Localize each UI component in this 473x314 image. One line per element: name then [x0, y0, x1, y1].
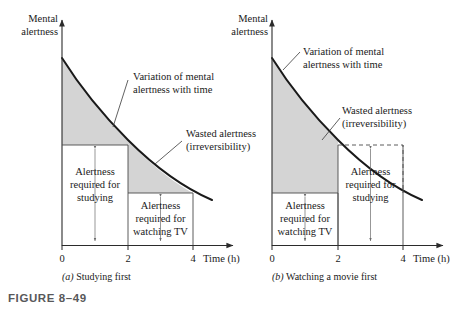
- leader-curve-callout-b: [283, 52, 300, 70]
- tick-label-4-a: 4: [190, 253, 196, 264]
- leader-wasted-callout-a: [155, 141, 182, 164]
- curve-callout-a-line2: alertness with time: [133, 84, 213, 95]
- x-axis-label-b: Time (h): [413, 253, 450, 265]
- leader-curve-callout-a: [113, 80, 128, 127]
- chart-b: Mental alertness Time (h) 0 2 4 Variatio…: [231, 13, 450, 283]
- wasted-callout-b-line2: (irreversibility): [342, 118, 407, 130]
- chart-a: Mental alertness Time (h) 0 2 4 Variatio…: [21, 13, 256, 283]
- block-studying-label-a-line3: studying: [77, 192, 114, 203]
- block-studying-label-b-line3: studying: [352, 192, 389, 203]
- tick-label-0-b: 0: [269, 253, 274, 264]
- y-axis-label-a-line1: Mental: [28, 13, 58, 24]
- block-watching-tv-label-b-line1: Alertness: [285, 200, 325, 211]
- block-watching-tv-label-b-line3: watching TV: [278, 226, 333, 237]
- block-studying-label-b-line2: required for: [346, 179, 396, 190]
- y-axis-label-b-line2: alertness: [231, 26, 268, 37]
- block-studying-label-b-line1: Alertness: [351, 166, 391, 177]
- x-axis-label-a: Time (h): [203, 253, 240, 265]
- y-axis-label-a-line2: alertness: [21, 26, 58, 37]
- subcaption-b-text: Watching a movie first: [284, 271, 378, 282]
- wasted-callout-b-line1: Wasted alertness: [342, 105, 412, 116]
- block-watching-tv-label-a-line2: required for: [136, 213, 186, 224]
- shaded-wasted-area-b: [272, 58, 338, 193]
- tick-label-4-b: 4: [400, 253, 406, 264]
- subcaption-a-text: Studying first: [74, 271, 131, 282]
- figure-container: Mental alertness Time (h) 0 2 4 Variatio…: [0, 0, 473, 314]
- tick-label-2-b: 2: [335, 253, 340, 264]
- figure-graphic: Mental alertness Time (h) 0 2 4 Variatio…: [0, 0, 473, 314]
- curve-callout-b-line1: Variation of mental: [303, 46, 384, 57]
- subcaption-b: (b) Watching a movie first: [272, 271, 377, 283]
- block-watching-tv-label-a-line3: watching TV: [133, 226, 188, 237]
- block-watching-tv-label-a-line1: Alertness: [141, 200, 181, 211]
- tick-label-0-a: 0: [59, 253, 64, 264]
- block-studying-label-a-line2: required for: [70, 179, 120, 190]
- figure-caption: FIGURE 8–49: [8, 292, 87, 304]
- block-studying-label-a-line1: Alertness: [75, 166, 115, 177]
- subcaption-a: (a) Studying first: [62, 271, 131, 283]
- wasted-callout-a-line1: Wasted alertness: [186, 128, 256, 139]
- curve-callout-a-line1: Variation of mental: [133, 71, 214, 82]
- subcaption-b-prefix: (b): [272, 271, 284, 283]
- tick-label-2-a: 2: [125, 253, 130, 264]
- wasted-callout-a-line2: (irreversibility): [186, 141, 251, 153]
- curve-callout-b-line2: alertness with time: [303, 59, 383, 70]
- y-axis-label-b-line1: Mental: [238, 13, 268, 24]
- block-watching-tv-label-b-line2: required for: [280, 213, 330, 224]
- subcaption-a-prefix: (a): [62, 271, 74, 283]
